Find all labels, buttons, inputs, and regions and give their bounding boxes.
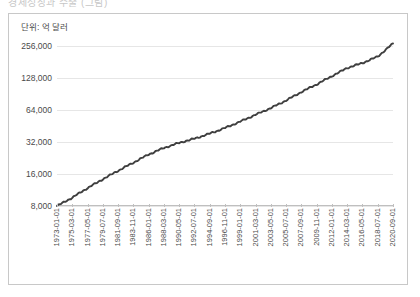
x-axis-tick-label: 1973-01-01 bbox=[53, 208, 61, 246]
y-axis-tick-label: 32,000 bbox=[26, 137, 52, 147]
x-axis-tickmark bbox=[88, 204, 89, 207]
x-axis-tick-label: 2012-01-01 bbox=[328, 208, 336, 246]
x-axis-tickmark bbox=[301, 204, 302, 207]
x-axis-tickmark bbox=[118, 204, 119, 207]
x-axis-tickmark bbox=[317, 204, 318, 207]
x-axis-tick-label: 1983-11-01 bbox=[129, 208, 137, 246]
clipped-page-title: 경제성장과 수출 (그림) bbox=[8, 0, 108, 9]
y-axis-tick-label: 8,000 bbox=[31, 201, 52, 211]
x-axis-tickmark bbox=[393, 204, 394, 207]
x-axis-tick-label: 1996-11-01 bbox=[221, 208, 229, 246]
x-axis-tickmark bbox=[378, 204, 379, 207]
x-axis-tick-label: 2009-11-01 bbox=[313, 208, 321, 246]
x-axis-tick-label: 2020-09-01 bbox=[389, 208, 397, 246]
x-axis-tickmark bbox=[362, 204, 363, 207]
y-axis-unit-label: 단위: 억 달러 bbox=[21, 20, 68, 32]
x-axis-tick-label: 2007-09-01 bbox=[297, 208, 305, 246]
y-axis-tick-label: 16,000 bbox=[26, 169, 52, 179]
chart-frame: 단위: 억 달러 8,00016,00032,00064,000128,0002… bbox=[8, 13, 408, 285]
y-axis-tick-label: 128,000 bbox=[21, 73, 52, 83]
x-axis-tickmark bbox=[133, 204, 134, 207]
x-axis-tick-label: 1994-09-01 bbox=[206, 208, 214, 246]
x-axis-tick-label: 2018-07-01 bbox=[374, 208, 382, 246]
x-axis-tick-label: 1990-05-01 bbox=[175, 208, 183, 246]
x-axis-tickmark bbox=[194, 204, 195, 207]
plot-area: 8,00016,00032,00064,000128,000256,000 bbox=[57, 39, 393, 206]
x-axis-tick-label: 1977-05-01 bbox=[84, 208, 92, 246]
x-axis-tickmark bbox=[271, 204, 272, 207]
x-axis-tick-label: 2001-03-01 bbox=[252, 208, 260, 246]
x-axis-tick-label: 1988-03-01 bbox=[160, 208, 168, 246]
x-axis-tick-label: 1975-03-01 bbox=[68, 208, 76, 246]
x-axis-tickmark bbox=[210, 204, 211, 207]
y-axis-tick-label: 256,000 bbox=[21, 41, 52, 51]
x-axis-tickmark bbox=[332, 204, 333, 207]
y-axis-tick-label: 64,000 bbox=[26, 105, 52, 115]
x-axis-tickmark bbox=[164, 204, 165, 207]
x-axis-tickmark bbox=[225, 204, 226, 207]
x-axis-tickmark bbox=[286, 204, 287, 207]
x-axis-tickmark bbox=[149, 204, 150, 207]
x-axis-tick-label: 2016-05-01 bbox=[358, 208, 366, 246]
x-axis-tickmark bbox=[57, 204, 58, 207]
x-axis-tickmark bbox=[256, 204, 257, 207]
x-axis-tick-label: 1986-01-01 bbox=[145, 208, 153, 246]
x-axis-tick-label: 2005-07-01 bbox=[282, 208, 290, 246]
x-axis-tickmark bbox=[179, 204, 180, 207]
x-axis-tickmark bbox=[347, 204, 348, 207]
x-axis-tick-label: 2003-05-01 bbox=[267, 208, 275, 246]
x-axis-tick-label: 1992-07-01 bbox=[190, 208, 198, 246]
x-axis-tick-label: 1979-07-01 bbox=[99, 208, 107, 246]
x-axis-tick-label: 1981-09-01 bbox=[114, 208, 122, 246]
line-series bbox=[57, 39, 393, 206]
x-axis-tick-labels: 1973-01-011975-03-011977-05-011979-07-01… bbox=[57, 208, 393, 270]
x-axis-tick-label: 2014-03-01 bbox=[343, 208, 351, 246]
x-axis-tickmark bbox=[103, 204, 104, 207]
x-axis-tick-label: 1999-01-01 bbox=[236, 208, 244, 246]
x-axis-tickmark bbox=[240, 204, 241, 207]
series-polyline bbox=[57, 44, 393, 206]
x-axis-tickmark bbox=[72, 204, 73, 207]
